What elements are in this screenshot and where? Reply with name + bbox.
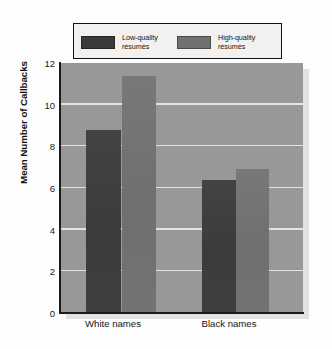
gridline-10 (60, 103, 303, 104)
legend-label-high-quality-line1: High-quality (218, 33, 255, 42)
x-axis-line (59, 312, 304, 314)
bar-white-names-low-quality (86, 130, 121, 313)
chart-legend: Low-quality résumés High-quality résumés (73, 23, 282, 59)
x-tick-label-black-names: Black names (174, 318, 284, 329)
y-tick-label-12: 12 (29, 58, 55, 69)
bar-black-names-low-quality (202, 180, 236, 313)
chart-figure: Low-quality résumés High-quality résumés… (0, 0, 332, 349)
legend-entry-high-quality: High-quality résumés (177, 29, 255, 55)
legend-label-low-quality: Low-quality résumés (122, 33, 158, 52)
bar-black-names-high-quality (236, 169, 269, 313)
legend-swatch-low-quality (81, 36, 115, 49)
y-tick-label-4: 4 (29, 224, 55, 235)
y-tick-label-10: 10 (29, 99, 55, 110)
y-tick-labels: 024681012 (26, 0, 55, 349)
plot-area (60, 63, 303, 313)
legend-entry-low-quality: Low-quality résumés (81, 29, 158, 55)
y-tick-label-0: 0 (29, 308, 55, 319)
y-axis-line (59, 62, 61, 314)
y-axis-title: Mean Number of Callbacks (18, 38, 29, 208)
legend-swatch-high-quality (177, 36, 211, 49)
legend-label-low-quality-line1: Low-quality (122, 33, 158, 42)
legend-label-low-quality-line2: résumés (122, 42, 149, 51)
y-tick-label-2: 2 (29, 266, 55, 277)
y-tick-label-8: 8 (29, 141, 55, 152)
y-tick-label-6: 6 (29, 183, 55, 194)
legend-label-high-quality: High-quality résumés (218, 33, 255, 52)
legend-label-high-quality-line2: résumés (218, 42, 245, 51)
bar-white-names-high-quality (122, 76, 156, 314)
x-tick-label-white-names: White names (58, 318, 168, 329)
